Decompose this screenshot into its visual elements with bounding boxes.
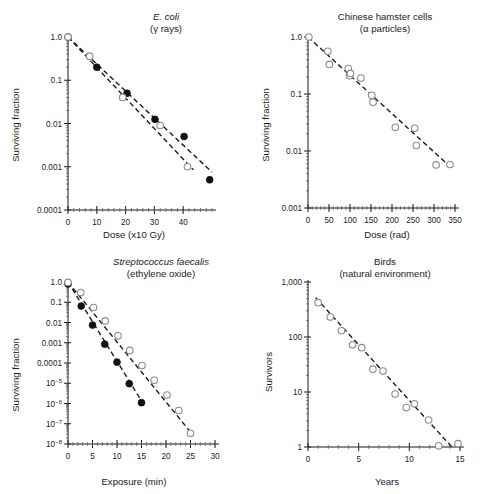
- svg-text:10: 10: [92, 218, 102, 227]
- svg-text:0.01: 0.01: [286, 147, 302, 156]
- svg-text:50: 50: [324, 216, 334, 225]
- svg-text:30: 30: [150, 218, 160, 227]
- svg-text:100: 100: [343, 216, 357, 225]
- svg-text:0.001: 0.001: [42, 339, 63, 348]
- svg-text:15: 15: [455, 455, 465, 464]
- svg-text:10−8: 10−8: [46, 439, 63, 449]
- svg-text:1.0: 1.0: [51, 33, 63, 42]
- panel-strep: Streptococcus faecalis (ethylene oxide) …: [0, 247, 249, 494]
- svg-text:0: 0: [66, 452, 71, 461]
- svg-text:0: 0: [66, 218, 71, 227]
- panel-birds-yaxis-title: Survivors: [263, 352, 274, 392]
- panel-strep-title-line2: (ethylene oxide): [127, 268, 195, 279]
- svg-text:10−7: 10−7: [46, 419, 63, 429]
- svg-text:150: 150: [364, 216, 378, 225]
- svg-text:1.0: 1.0: [51, 278, 63, 287]
- svg-text:40: 40: [179, 218, 189, 227]
- panel-birds: Birds (natural environment) 1,0001001010…: [250, 247, 499, 494]
- panel-ecoli: E. coli (γ rays) 1.00.10.010.0010.000101…: [0, 0, 249, 247]
- panel-ecoli-title-line1: E. coli: [153, 11, 180, 22]
- panel-strep-plot-area: 1.00.10.010.0010.000110−510−610−710−8051…: [37, 278, 220, 461]
- svg-text:0.0001: 0.0001: [37, 206, 62, 215]
- svg-text:10: 10: [293, 388, 303, 397]
- panel-birds-xaxis-title: Years: [375, 476, 399, 487]
- svg-text:1,000: 1,000: [282, 278, 303, 287]
- svg-text:0.01: 0.01: [46, 120, 62, 129]
- panel-ecoli-yaxis-title: Surviving fraction: [10, 88, 21, 162]
- panel-hamster-title-line2: (α particles): [360, 23, 410, 34]
- svg-text:0.0001: 0.0001: [37, 359, 62, 368]
- svg-text:20: 20: [161, 452, 171, 461]
- panel-hamster: Chinese hamster cells (α particles) 1.00…: [250, 0, 499, 247]
- panel-hamster-plot-area: 1.00.10.010.001050100150200250300350: [282, 33, 463, 225]
- panel-hamster-chart: Chinese hamster cells (α particles) 1.00…: [250, 0, 499, 247]
- panel-strep-title-line1: Streptococcus faecalis: [113, 256, 209, 267]
- panel-ecoli-title-line2: (γ rays): [150, 23, 182, 34]
- svg-text:5: 5: [90, 452, 95, 461]
- svg-text:10−6: 10−6: [46, 399, 63, 409]
- panel-strep-chart: Streptococcus faecalis (ethylene oxide) …: [0, 247, 249, 494]
- survival-curves-figure: E. coli (γ rays) 1.00.10.010.0010.000101…: [0, 0, 499, 494]
- svg-text:1: 1: [297, 443, 302, 452]
- svg-text:100: 100: [288, 333, 302, 342]
- panel-strep-xaxis-title: Exposure (min): [101, 476, 166, 487]
- panel-birds-title-line1: Birds: [374, 256, 396, 267]
- panel-hamster-yaxis-title: Surviving fraction: [260, 88, 271, 162]
- svg-text:30: 30: [210, 452, 220, 461]
- svg-text:1.0: 1.0: [291, 33, 303, 42]
- svg-text:15: 15: [137, 452, 147, 461]
- svg-text:10−5: 10−5: [46, 378, 63, 388]
- panel-birds-title-line2: (natural environment): [339, 268, 430, 279]
- panel-strep-yaxis-title: Surviving fraction: [10, 338, 21, 412]
- svg-text:0.1: 0.1: [291, 90, 303, 99]
- panel-ecoli-chart: E. coli (γ rays) 1.00.10.010.0010.000101…: [0, 0, 249, 247]
- svg-text:10: 10: [405, 455, 415, 464]
- svg-text:5: 5: [356, 455, 361, 464]
- svg-text:0.001: 0.001: [282, 204, 303, 213]
- panel-ecoli-plot-area: 1.00.10.010.0010.0001010203040: [37, 33, 216, 227]
- svg-text:250: 250: [406, 216, 420, 225]
- svg-text:0.1: 0.1: [51, 298, 63, 307]
- svg-text:0.001: 0.001: [42, 163, 63, 172]
- panel-hamster-title-line1: Chinese hamster cells: [338, 11, 433, 22]
- svg-text:0.1: 0.1: [51, 76, 63, 85]
- svg-text:0.01: 0.01: [46, 319, 62, 328]
- svg-text:25: 25: [186, 452, 196, 461]
- panel-ecoli-xaxis-title: Dose (x10 Gy): [103, 229, 165, 240]
- svg-text:350: 350: [448, 216, 462, 225]
- svg-text:10: 10: [112, 452, 122, 461]
- panel-birds-plot-area: 1,000100101051015: [282, 278, 465, 464]
- panel-birds-chart: Birds (natural environment) 1,0001001010…: [250, 247, 499, 494]
- svg-text:300: 300: [427, 216, 441, 225]
- svg-text:0: 0: [306, 216, 311, 225]
- panel-hamster-xaxis-title: Dose (rad): [364, 229, 409, 240]
- svg-text:200: 200: [385, 216, 399, 225]
- svg-text:20: 20: [121, 218, 131, 227]
- svg-text:0: 0: [306, 455, 311, 464]
